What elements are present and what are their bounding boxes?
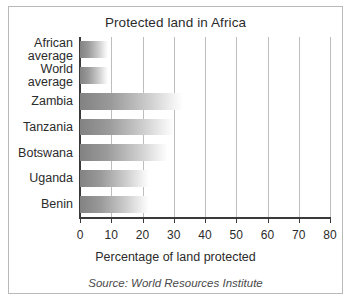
- bar-row: Botswana: [80, 144, 330, 161]
- x-tick-label: 80: [323, 228, 336, 242]
- bar-row: Zambia: [80, 93, 330, 110]
- x-tick: [236, 217, 237, 223]
- x-tick-label: 30: [167, 228, 180, 242]
- x-axis-label: Percentage of land protected: [9, 250, 342, 264]
- gridline: [330, 37, 331, 217]
- bar: [80, 67, 108, 84]
- bar: [80, 144, 168, 161]
- chart-figure: Protected land in Africa African average…: [8, 6, 343, 294]
- x-tick-label: 10: [105, 228, 118, 242]
- bar-row: World average: [80, 67, 330, 84]
- bar: [80, 119, 174, 136]
- x-tick: [80, 217, 81, 223]
- plot-area: African averageWorld averageZambiaTanzan…: [80, 37, 330, 217]
- bar-row: Benin: [80, 196, 330, 213]
- category-label: Botswana: [7, 146, 73, 159]
- x-tick-label: 0: [77, 228, 84, 242]
- x-tick-label: 60: [261, 228, 274, 242]
- bar: [80, 196, 149, 213]
- bar-row: African average: [80, 41, 330, 58]
- x-tick: [330, 217, 331, 223]
- x-tick-label: 70: [292, 228, 305, 242]
- category-label: World average: [7, 63, 73, 89]
- chart-title: Protected land in Africa: [9, 15, 342, 30]
- bar: [80, 41, 108, 58]
- x-tick: [205, 217, 206, 223]
- category-label: African average: [7, 37, 73, 63]
- x-tick-label: 50: [230, 228, 243, 242]
- x-tick: [111, 217, 112, 223]
- x-tick: [174, 217, 175, 223]
- bar: [80, 170, 149, 187]
- x-tick: [268, 217, 269, 223]
- source-note: Source: World Resources Institute: [9, 277, 342, 289]
- bar-row: Uganda: [80, 170, 330, 187]
- bar-row: Tanzania: [80, 119, 330, 136]
- bar: [80, 93, 183, 110]
- x-tick-label: 40: [198, 228, 211, 242]
- category-label: Uganda: [7, 172, 73, 185]
- category-label: Zambia: [7, 95, 73, 108]
- category-label: Benin: [7, 198, 73, 211]
- x-tick-label: 20: [136, 228, 149, 242]
- x-tick: [299, 217, 300, 223]
- category-label: Tanzania: [7, 120, 73, 133]
- x-tick: [143, 217, 144, 223]
